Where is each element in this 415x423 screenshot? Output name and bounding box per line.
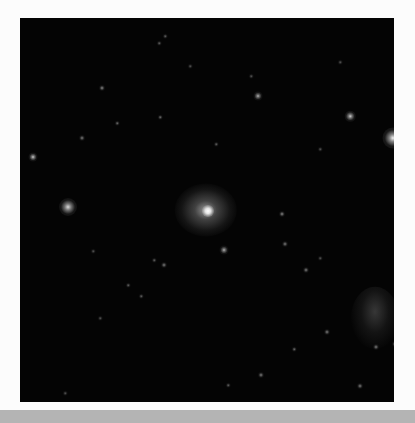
star — [188, 64, 193, 69]
star — [292, 347, 297, 352]
star — [63, 391, 68, 396]
star — [258, 372, 264, 378]
star — [91, 249, 96, 254]
star — [163, 34, 168, 39]
star — [214, 142, 219, 147]
bottom-bar — [0, 410, 415, 423]
star — [338, 60, 343, 65]
star — [126, 283, 131, 288]
star — [254, 92, 263, 101]
star — [249, 74, 254, 79]
star — [324, 329, 330, 335]
star — [318, 147, 323, 152]
star — [345, 111, 356, 122]
star — [279, 211, 285, 217]
star — [392, 341, 394, 347]
star — [115, 121, 120, 126]
star — [318, 256, 323, 261]
star-field-image — [20, 18, 394, 402]
star — [282, 241, 288, 247]
star — [373, 344, 379, 350]
star — [79, 135, 85, 141]
star — [383, 128, 395, 149]
nebula-glow — [351, 287, 394, 349]
star — [59, 198, 77, 216]
star — [29, 153, 38, 162]
star — [98, 316, 103, 321]
star — [158, 115, 163, 120]
star — [99, 85, 105, 91]
star — [152, 258, 157, 263]
galaxy-core — [202, 205, 214, 217]
star — [157, 41, 162, 46]
star — [303, 267, 309, 273]
star — [357, 383, 363, 389]
star — [161, 262, 167, 268]
star — [220, 246, 229, 255]
star — [139, 294, 144, 299]
star — [226, 383, 231, 388]
